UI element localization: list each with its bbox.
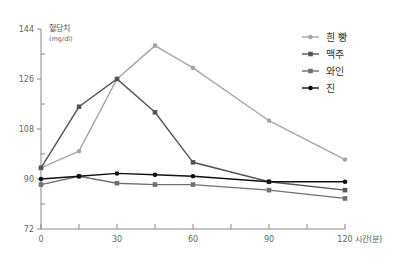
data-point xyxy=(267,188,272,193)
data-point xyxy=(77,149,82,154)
line-chart: 72901081261440306090120혈당치(mg/dl)시간(분) 흰… xyxy=(0,0,402,263)
data-point xyxy=(267,179,272,184)
legend-marker-icon xyxy=(308,69,313,74)
data-point xyxy=(343,179,348,184)
series-line xyxy=(41,176,345,198)
y-tick-label: 90 xyxy=(24,175,34,184)
y-tick-label: 108 xyxy=(19,125,34,134)
data-point xyxy=(77,104,82,109)
data-point xyxy=(153,43,158,48)
y-axis-unit: (mg/dl) xyxy=(49,35,73,43)
data-point xyxy=(153,182,158,187)
y-tick-label: 72 xyxy=(24,225,34,234)
data-point xyxy=(115,181,120,186)
legend-item: 와인 xyxy=(302,66,344,77)
y-tick-label: 126 xyxy=(19,75,34,84)
data-point xyxy=(343,157,348,162)
data-point xyxy=(39,166,44,171)
data-point xyxy=(343,196,348,201)
series-lines xyxy=(39,43,348,200)
legend-label: 흰 빵 xyxy=(326,32,347,43)
y-tick-label: 144 xyxy=(19,25,34,34)
data-point xyxy=(191,66,196,71)
x-tick-label: 90 xyxy=(264,235,274,244)
x-axis-title: 시간(분) xyxy=(355,234,382,244)
data-point xyxy=(39,182,44,187)
x-tick-label: 30 xyxy=(112,235,122,244)
data-point xyxy=(191,174,196,179)
data-point xyxy=(153,110,158,115)
legend-label: 와인 xyxy=(326,66,344,77)
data-point xyxy=(115,77,120,82)
data-point xyxy=(77,174,82,179)
series-line xyxy=(41,46,345,168)
legend-marker-icon xyxy=(308,52,313,57)
data-point xyxy=(191,182,196,187)
legend-item: 맥주 xyxy=(302,49,344,60)
legend-item: 흰 빵 xyxy=(302,32,347,43)
y-axis-title: 혈당치 xyxy=(49,23,70,33)
data-point xyxy=(267,118,272,123)
legend-item: 진 xyxy=(302,83,335,94)
legend-marker-icon xyxy=(308,86,313,91)
legend-label: 맥주 xyxy=(326,49,344,60)
legend-label: 진 xyxy=(326,83,335,94)
data-point xyxy=(343,188,348,193)
legend: 흰 빵맥주와인진 xyxy=(302,32,347,94)
x-tick-label: 60 xyxy=(188,235,198,244)
data-point xyxy=(115,171,120,176)
data-point xyxy=(191,160,196,165)
data-point xyxy=(39,177,44,182)
x-tick-label: 120 xyxy=(337,235,352,244)
legend-marker-icon xyxy=(308,35,313,40)
series-0 xyxy=(39,43,348,170)
x-tick-label: 0 xyxy=(38,235,43,244)
series-line xyxy=(41,79,345,190)
data-point xyxy=(153,173,158,178)
